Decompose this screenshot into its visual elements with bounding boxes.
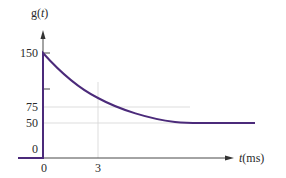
- g-curve: [18, 53, 255, 158]
- x-axis-label: t(ms): [239, 151, 264, 165]
- ytick-label-75: 75: [26, 100, 38, 114]
- y-axis-arrow-icon: [41, 30, 46, 39]
- xtick-label-0: 0: [41, 161, 47, 175]
- chart: g(t) 150 75 50 0 0 3 t(ms): [0, 0, 286, 178]
- ytick-label-0: 0: [32, 142, 38, 156]
- xtick-label-3: 3: [95, 161, 101, 175]
- x-axis-arrow-icon: [225, 156, 234, 161]
- y-axis-label: g(t): [31, 6, 48, 20]
- ytick-label-150: 150: [20, 46, 38, 60]
- y-axis-label-g: g(: [31, 6, 41, 20]
- ytick-label-50: 50: [26, 116, 38, 130]
